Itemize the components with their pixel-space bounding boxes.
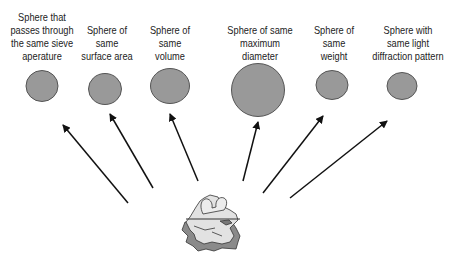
sphere-volume xyxy=(151,69,190,104)
sphere-weight xyxy=(316,71,348,100)
arrow-sieve xyxy=(63,125,128,203)
arrow-light-diffraction xyxy=(290,121,387,198)
sphere-max-diameter xyxy=(232,64,285,117)
sphere-light-diffraction xyxy=(387,73,417,100)
sphere-surface-area xyxy=(89,74,122,105)
arrow-weight xyxy=(263,116,323,193)
irregular-particle-icon xyxy=(182,195,240,251)
spheres xyxy=(26,64,417,117)
arrow-surface-area xyxy=(110,114,153,188)
sphere-sieve xyxy=(26,71,58,102)
arrow-volume xyxy=(170,114,198,181)
arrows xyxy=(63,114,387,203)
diagram-canvas xyxy=(0,0,458,263)
arrow-max-diameter xyxy=(243,122,258,181)
